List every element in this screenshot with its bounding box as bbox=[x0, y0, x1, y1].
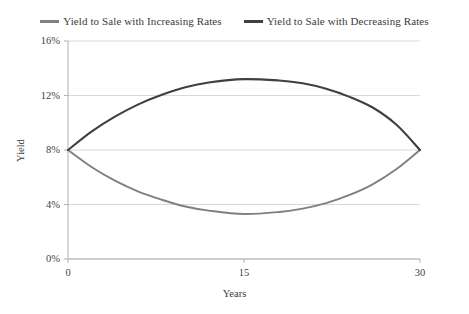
y-tick-label: 16% bbox=[20, 36, 60, 47]
y-axis-title: Yield bbox=[15, 121, 26, 181]
series-line bbox=[68, 79, 420, 150]
x-tick-label: 0 bbox=[48, 268, 88, 279]
gridlines bbox=[68, 41, 420, 259]
chart-container: Yield to Sale with Increasing Rates Yiel… bbox=[0, 0, 469, 314]
x-tick-label: 30 bbox=[400, 268, 440, 279]
axis-ticks bbox=[64, 41, 420, 263]
x-tick-label: 15 bbox=[224, 268, 264, 279]
data-series bbox=[68, 79, 420, 214]
y-tick-label: 4% bbox=[20, 200, 60, 211]
x-axis-title: Years bbox=[0, 288, 469, 299]
y-tick-label: 8% bbox=[20, 145, 60, 156]
y-tick-label: 12% bbox=[20, 91, 60, 102]
y-tick-label: 0% bbox=[20, 254, 60, 265]
